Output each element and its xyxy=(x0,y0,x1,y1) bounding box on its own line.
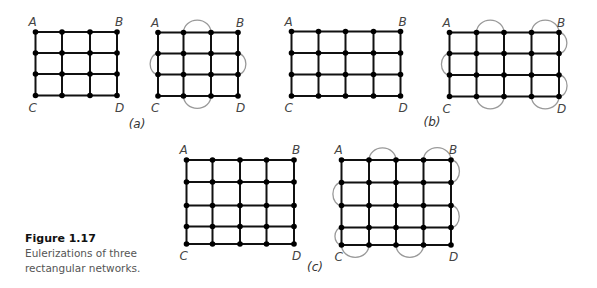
duplicated-edge-arc xyxy=(333,183,342,206)
vertex-node xyxy=(393,180,399,186)
vertex-node xyxy=(87,50,93,56)
vertex-node xyxy=(59,29,65,35)
vertex-node xyxy=(421,180,427,186)
vertex-node xyxy=(393,157,399,163)
vertex-label-b: B xyxy=(449,143,457,157)
vertex-node xyxy=(398,29,404,35)
vertex-node xyxy=(529,30,535,36)
vertex-node xyxy=(474,30,480,36)
vertex-node xyxy=(210,241,216,247)
vertex-label-a: A xyxy=(150,16,159,30)
duplicated-edge-arc xyxy=(451,160,459,183)
vertex-node xyxy=(556,30,562,36)
panel-a: ABCDABCD(a) xyxy=(28,15,246,131)
vertex-node xyxy=(181,30,187,36)
figure-caption-text: Eulerizations of three rectangular netwo… xyxy=(25,247,140,274)
vertex-node xyxy=(421,225,427,231)
vertex-node xyxy=(59,71,65,77)
duplicated-edge-arc xyxy=(477,97,505,109)
vertex-node xyxy=(421,242,427,248)
vertex-label-b: B xyxy=(399,15,407,29)
vertex-node xyxy=(556,72,562,78)
vertex-node xyxy=(529,94,535,100)
duplicated-edge-arc xyxy=(184,96,212,108)
vertex-node xyxy=(289,93,295,99)
vertex-node xyxy=(339,203,345,209)
vertex-node xyxy=(366,180,372,186)
duplicated-edge-arc xyxy=(477,20,505,32)
vertex-node xyxy=(184,224,190,230)
vertex-node xyxy=(447,72,453,78)
duplicated-edge-arc xyxy=(451,206,459,228)
vertex-node xyxy=(237,224,243,230)
vertex-node xyxy=(184,203,190,209)
vertex-node xyxy=(208,72,214,78)
vertex-node xyxy=(114,71,120,77)
vertex-node xyxy=(371,50,377,56)
vertex-node xyxy=(237,241,243,247)
vertex-node xyxy=(237,179,243,185)
vertex-node xyxy=(291,241,297,247)
vertex-node xyxy=(339,180,345,186)
vertex-node xyxy=(184,179,190,185)
vertex-node xyxy=(235,72,241,78)
vertex-label-d: D xyxy=(292,249,301,263)
vertex-node xyxy=(398,93,404,99)
vertex-node xyxy=(501,72,507,78)
vertex-node xyxy=(474,72,480,78)
duplicated-edge-arc xyxy=(559,75,567,97)
vertex-node xyxy=(155,51,161,57)
vertex-label-c: C xyxy=(335,250,344,264)
vertex-node xyxy=(448,157,454,163)
panel-c: ABCDABCD(c) xyxy=(179,143,460,274)
vertex-label-b: B xyxy=(292,143,300,157)
vertex-node xyxy=(343,29,349,35)
vertex-node xyxy=(237,157,243,163)
vertex-node xyxy=(447,51,453,57)
vertex-node xyxy=(371,72,377,78)
figure-caption: Figure 1.17 Eulerizations of three recta… xyxy=(25,231,155,276)
eulerized-network: ABCD xyxy=(441,16,567,116)
vertex-label-c: C xyxy=(285,101,294,115)
vertex-node xyxy=(114,50,120,56)
panel-label: (a) xyxy=(129,117,146,131)
vertex-node xyxy=(421,157,427,163)
vertex-label-a: A xyxy=(334,143,343,157)
vertex-node xyxy=(184,157,190,163)
vertex-node xyxy=(87,29,93,35)
vertex-node xyxy=(366,157,372,163)
vertex-label-c: C xyxy=(443,102,452,116)
vertex-node xyxy=(235,30,241,36)
vertex-node xyxy=(291,179,297,185)
duplicated-edge-arc xyxy=(184,20,212,32)
vertex-node xyxy=(155,30,161,36)
vertex-node xyxy=(114,93,120,99)
eulerized-network: ABCD xyxy=(333,143,460,264)
vertex-label-d: D xyxy=(449,250,458,264)
vertex-node xyxy=(448,180,454,186)
vertex-label-d: D xyxy=(399,101,408,115)
vertex-node xyxy=(339,225,345,231)
vertex-node xyxy=(291,157,297,163)
vertex-label-a: A xyxy=(284,15,293,29)
vertex-node xyxy=(210,179,216,185)
duplicated-edge-arc xyxy=(396,245,424,257)
vertex-node xyxy=(114,29,120,35)
original-network: ABCD xyxy=(284,15,408,116)
vertex-node xyxy=(393,225,399,231)
vertex-node xyxy=(501,51,507,57)
vertex-node xyxy=(343,93,349,99)
vertex-node xyxy=(398,72,404,78)
vertex-node xyxy=(289,72,295,78)
vertex-label-b: B xyxy=(236,16,244,30)
vertex-node xyxy=(181,93,187,99)
duplicated-edge-arc xyxy=(238,54,246,75)
vertex-label-a: A xyxy=(28,15,37,29)
panel-label: (c) xyxy=(307,260,323,274)
vertex-node xyxy=(393,203,399,209)
duplicated-edge-arc xyxy=(369,148,396,160)
vertex-node xyxy=(235,93,241,99)
vertex-node xyxy=(529,72,535,78)
vertex-node xyxy=(155,93,161,99)
vertex-node xyxy=(447,94,453,100)
